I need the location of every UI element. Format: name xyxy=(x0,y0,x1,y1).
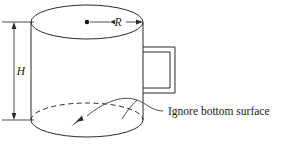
height-arrowhead-top xyxy=(12,22,17,29)
height-label: H xyxy=(16,65,26,77)
radius-arrowhead-right xyxy=(136,19,143,24)
bottom-ellipse-visible-arc xyxy=(31,120,143,137)
annotation-leader-curve xyxy=(87,98,163,116)
ignore-bottom-surface-label: Ignore bottom surface xyxy=(168,105,270,118)
handle-inner-outline xyxy=(143,52,170,88)
radius-indicator: R xyxy=(85,16,143,28)
bottom-ellipse-hidden-arc xyxy=(31,103,143,120)
cylinder-body xyxy=(31,22,143,120)
height-arrowhead-bottom xyxy=(12,113,17,120)
figure-container: R H Ignore bottom surface xyxy=(0,0,282,150)
annotation-leader-branch xyxy=(122,100,137,119)
center-dot-icon xyxy=(85,20,89,24)
annotation-arrowhead xyxy=(71,116,84,128)
radius-label: R xyxy=(113,16,121,28)
mug-handle xyxy=(143,47,175,93)
annotation-leader xyxy=(71,98,163,127)
bottom-ellipse xyxy=(31,103,143,137)
mug-diagram-svg: R H Ignore bottom surface xyxy=(0,0,282,150)
height-dimension: H xyxy=(2,22,34,120)
